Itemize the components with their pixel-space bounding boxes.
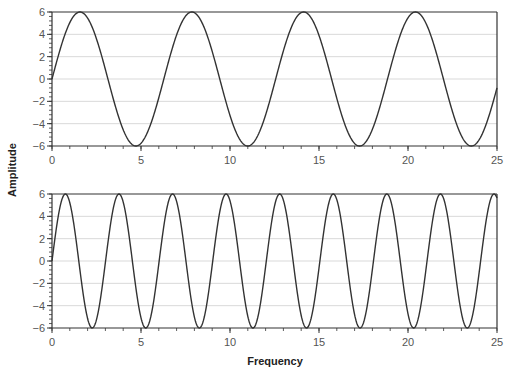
- figure-canvas: −6−4−202460510152025 −6−4−20246051015202…: [0, 0, 511, 382]
- y-tick-label: 4: [39, 210, 45, 222]
- x-tick-label: 20: [402, 154, 414, 166]
- x-tick-label: 10: [224, 336, 236, 348]
- x-tick-label: 10: [224, 154, 236, 166]
- y-tick-label: 6: [39, 6, 45, 18]
- y-tick-label: −4: [32, 118, 45, 130]
- x-tick-label: 20: [402, 336, 414, 348]
- y-tick-label: 2: [39, 233, 45, 245]
- x-tick-label: 15: [313, 336, 325, 348]
- y-tick-label: −6: [32, 140, 45, 152]
- x-tick-label: 0: [49, 336, 55, 348]
- y-tick-label: −6: [32, 322, 45, 334]
- y-tick-label: 0: [39, 255, 45, 267]
- y-tick-label: 2: [39, 51, 45, 63]
- x-tick-label: 5: [138, 336, 144, 348]
- x-tick-label: 15: [313, 154, 325, 166]
- x-tick-label: 5: [138, 154, 144, 166]
- bottom-plot-panel: −6−4−202460510152025: [32, 188, 503, 348]
- x-tick-label: 25: [491, 154, 503, 166]
- x-tick-label: 0: [49, 154, 55, 166]
- figure: −6−4−202460510152025 −6−4−20246051015202…: [0, 0, 511, 382]
- y-tick-label: −2: [32, 277, 45, 289]
- y-tick-label: 4: [39, 28, 45, 40]
- y-axis-label: Amplitude: [6, 143, 18, 197]
- y-tick-label: 0: [39, 73, 45, 85]
- y-tick-label: −2: [32, 95, 45, 107]
- top-plot-panel: −6−4−202460510152025: [32, 6, 503, 166]
- x-tick-label: 25: [491, 336, 503, 348]
- y-tick-label: −4: [32, 300, 45, 312]
- x-axis-label: Frequency: [247, 355, 304, 367]
- y-tick-label: 6: [39, 188, 45, 200]
